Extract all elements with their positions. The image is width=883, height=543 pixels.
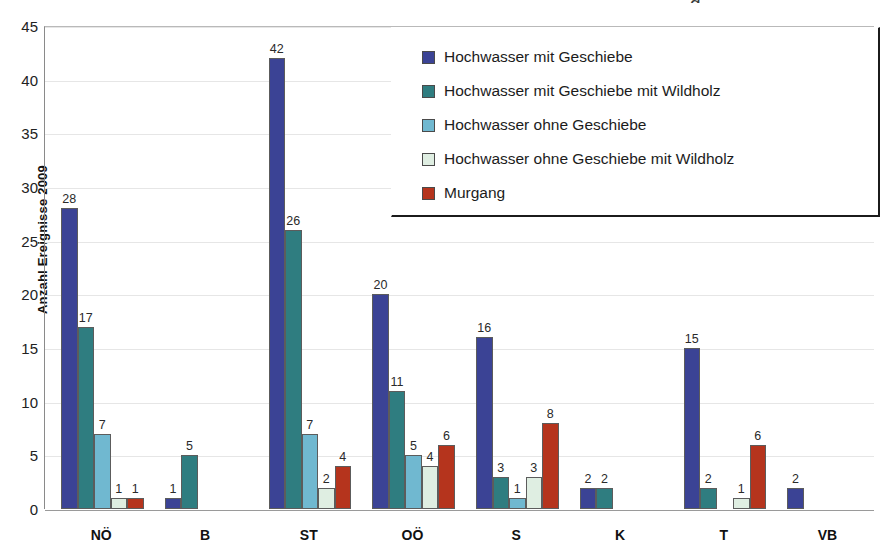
bar[interactable]: 17: [78, 327, 95, 509]
y-axis-tick-10: 10: [2, 393, 38, 410]
bar-value-label: 6: [754, 429, 761, 443]
legend-item[interactable]: Murgang: [422, 176, 734, 210]
bar[interactable]: 3: [526, 477, 543, 509]
bar-chart: Anzahl Ereignisse 2009 45403530252015105…: [0, 0, 883, 543]
legend-label: Murgang: [444, 184, 505, 202]
bar[interactable]: 2: [596, 488, 613, 509]
scan-artifact-glyph: g: [690, 0, 701, 3]
bar-value-label: 2: [792, 472, 799, 486]
bar-slot: 20: [372, 27, 389, 509]
bar[interactable]: 6: [438, 445, 455, 509]
bar-value-label: 3: [497, 461, 504, 475]
bar-value-label: 5: [186, 439, 193, 453]
bar[interactable]: 7: [302, 434, 319, 509]
bar[interactable]: 16: [476, 337, 493, 509]
bar[interactable]: 26: [285, 230, 302, 509]
bar-value-label: 20: [374, 278, 388, 292]
bar-value-label: 1: [170, 482, 177, 496]
bar-slot: 42: [269, 27, 286, 509]
x-axis-label-K: K: [615, 527, 625, 543]
y-axis-tick-20: 20: [2, 286, 38, 303]
bar-value-label: 2: [705, 472, 712, 486]
legend-swatch-icon: [422, 187, 435, 200]
y-axis-tick-0: 0: [2, 501, 38, 518]
bar[interactable]: 2: [700, 488, 717, 509]
bar-value-label: 15: [685, 332, 699, 346]
bar[interactable]: 8: [542, 423, 559, 509]
bar[interactable]: 2: [580, 488, 597, 509]
bar[interactable]: 5: [405, 455, 422, 509]
bar[interactable]: 1: [165, 498, 182, 509]
legend-item[interactable]: Hochwasser ohne Geschiebe mit Wildholz: [422, 142, 734, 176]
bar-value-label: 8: [547, 407, 554, 421]
bar-value-label: 4: [339, 450, 346, 464]
bar-value-label: 17: [79, 311, 93, 325]
bar-slot: [231, 27, 248, 509]
bar-value-label: 2: [585, 472, 592, 486]
bar-value-label: 7: [306, 418, 313, 432]
y-axis-tick-30: 30: [2, 179, 38, 196]
bar[interactable]: 28: [61, 208, 78, 509]
bar-value-label: 7: [99, 418, 106, 432]
bar-value-label: 26: [286, 214, 300, 228]
y-axis-tick-labels: 454035302520151050: [0, 26, 38, 509]
bar[interactable]: 2: [787, 488, 804, 509]
bar-value-label: 1: [115, 482, 122, 496]
bar-value-label: 16: [477, 321, 491, 335]
bar[interactable]: 20: [372, 294, 389, 509]
bar-value-label: 42: [270, 42, 284, 56]
bar[interactable]: 11: [389, 391, 406, 509]
bar-value-label: 1: [738, 482, 745, 496]
legend-swatch-icon: [422, 85, 435, 98]
bar-group: 15: [149, 27, 253, 509]
bar-slot: 4: [335, 27, 352, 509]
bar[interactable]: 1: [733, 498, 750, 509]
y-axis-tick-5: 5: [2, 447, 38, 464]
legend-label: Hochwasser ohne Geschiebe mit Wildholz: [444, 150, 734, 168]
bar-slot: 1: [127, 27, 144, 509]
bar-value-label: 2: [323, 472, 330, 486]
bar[interactable]: 15: [684, 348, 701, 509]
x-axis-label-VB: VB: [818, 527, 837, 543]
bar[interactable]: 7: [94, 434, 111, 509]
bar-value-label: 11: [391, 375, 404, 389]
bar-slot: [214, 27, 231, 509]
bar-slot: 1: [111, 27, 128, 509]
bar-slot: [198, 27, 215, 509]
legend-swatch-icon: [422, 119, 435, 132]
bar[interactable]: 6: [750, 445, 767, 509]
bar-value-label: 1: [132, 482, 139, 496]
bar-value-label: 4: [427, 450, 434, 464]
bar[interactable]: 4: [422, 466, 439, 509]
legend-label: Hochwasser mit Geschiebe mit Wildholz: [444, 82, 721, 100]
bar-slot: 2: [318, 27, 335, 509]
bar[interactable]: 5: [181, 455, 198, 509]
chart-legend: Hochwasser mit GeschiebeHochwasser mit G…: [391, 27, 880, 217]
legend-item[interactable]: Hochwasser ohne Geschiebe: [422, 108, 734, 142]
bar[interactable]: 1: [509, 498, 526, 509]
bar[interactable]: 1: [111, 498, 128, 509]
x-axis-label-ST: ST: [300, 527, 318, 543]
legend-swatch-icon: [422, 153, 435, 166]
y-axis-tick-35: 35: [2, 125, 38, 142]
bar-slot: 28: [61, 27, 78, 509]
legend-label: Hochwasser ohne Geschiebe: [444, 116, 646, 134]
legend-item[interactable]: Hochwasser mit Geschiebe mit Wildholz: [422, 74, 734, 108]
legend-item[interactable]: Hochwasser mit Geschiebe: [422, 40, 734, 74]
bar-value-label: 2: [601, 472, 608, 486]
bar[interactable]: 1: [127, 498, 144, 509]
bar-value-label: 5: [410, 439, 417, 453]
bar[interactable]: 2: [318, 488, 335, 509]
y-axis-tick-40: 40: [2, 71, 38, 88]
bar[interactable]: 3: [493, 477, 510, 509]
bar[interactable]: 42: [269, 58, 286, 509]
bar-slot: 7: [302, 27, 319, 509]
bar-group: 2817711: [45, 27, 149, 509]
bar-value-label: 3: [530, 461, 537, 475]
x-axis-category-labels: NÖBSTOÖSKTVB: [44, 513, 874, 543]
gridline-0: [45, 510, 874, 511]
x-axis-label-NÖ: NÖ: [91, 527, 112, 543]
bar[interactable]: 4: [335, 466, 352, 509]
bar-slot: 17: [78, 27, 95, 509]
bar-value-label: 28: [62, 192, 76, 206]
